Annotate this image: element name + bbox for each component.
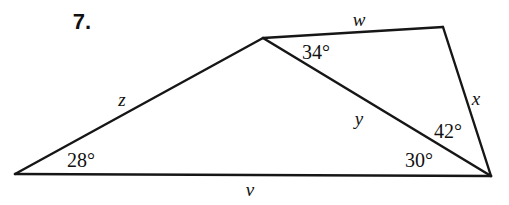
side-label-v: v [246,180,254,199]
geometry-figure: 7. v z w x y 28° 34° 42° 30° [0,0,509,205]
angle-label-30: 30° [405,150,433,170]
segment-x [443,27,491,176]
angle-label-34: 34° [302,42,330,62]
problem-number: 7. [73,11,91,33]
segment-y [263,38,491,176]
side-label-w: w [353,10,366,29]
angle-label-28: 28° [67,150,95,170]
segment-z [15,38,263,174]
angle-label-42: 42° [434,121,462,141]
segment-v [15,174,491,176]
side-label-x: x [472,89,480,108]
side-label-z: z [118,90,125,109]
side-label-y: y [355,109,363,128]
